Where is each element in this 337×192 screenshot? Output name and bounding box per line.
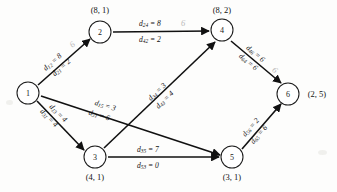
node-2-label: 2 <box>98 28 102 37</box>
node-3-pair: (4, 1) <box>86 172 105 182</box>
edge-5-6-labels: d56=2 d65=6 <box>240 116 270 146</box>
node-3[interactable]: 3 <box>84 146 106 168</box>
edge-3-5-forward-label: d35=7 <box>137 145 160 154</box>
edge-2-4 <box>113 31 209 32</box>
node-5-label: 5 <box>230 153 234 162</box>
edge-2-4-reverse-label: d42=2 <box>139 35 161 44</box>
edge-5-6-forward-label: d56=2 <box>240 116 261 138</box>
edge-1-3-labels: d13=4 d31=4 <box>38 100 69 131</box>
edge-1-5-forward-label: d15=3 <box>94 98 118 113</box>
node-5-pair: (3, 1) <box>223 172 242 182</box>
node-6-label: 6 <box>286 90 290 99</box>
node-3-label: 3 <box>93 153 97 162</box>
edge-4-6 <box>231 41 281 83</box>
edge-3-4-labels: d34=3 d43=4 <box>146 81 176 111</box>
node-4-label: 4 <box>220 26 224 35</box>
node-2[interactable]: 2 <box>89 21 111 43</box>
node-1[interactable]: 1 <box>17 82 39 104</box>
edge-3-5-reverse-label: d53=0 <box>137 161 159 170</box>
node-2-pair: (8, 1) <box>91 5 110 15</box>
edge-4-6-handwritten-note: 6 <box>270 65 280 76</box>
node-1-label: 1 <box>26 89 30 98</box>
node-6[interactable]: 6 <box>277 83 299 105</box>
node-4[interactable]: 4 <box>211 19 233 41</box>
node-6-pair: (2, 5) <box>308 89 327 99</box>
edge-1-2-handwritten-note: 6 <box>67 39 77 50</box>
edge-1-2 <box>38 39 90 85</box>
edge-1-5 <box>41 96 220 155</box>
edge-2-4-forward-label: d24=8 <box>139 19 161 28</box>
node-4-pair: (8, 2) <box>213 5 232 15</box>
edge-1-2-labels: d12=8 6 d21=2 <box>41 39 84 80</box>
network-graph: 1 2 3 4 5 6 (8, 1) (8, 2) (4, 1) (3, 1) … <box>0 0 337 192</box>
node-5[interactable]: 5 <box>221 146 243 168</box>
figure-canvas: 1 2 3 4 5 6 (8, 1) (8, 2) (4, 1) (3, 1) … <box>0 0 337 192</box>
edge-2-4-handwritten-note: 6 <box>181 18 186 28</box>
